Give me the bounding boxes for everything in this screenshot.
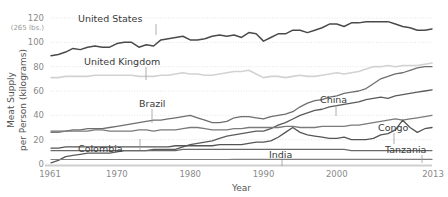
series-line-brazil bbox=[51, 67, 432, 131]
x-tick-label: 1980 bbox=[179, 169, 201, 179]
series-label-colombia: Colombia bbox=[78, 143, 123, 154]
y-axis-pounds-note: (265 lbs.) bbox=[11, 24, 45, 32]
series-label-united-states: United States bbox=[78, 13, 142, 24]
x-tick-label: 2013 bbox=[422, 169, 444, 179]
y-tick-label: 80 bbox=[33, 62, 44, 72]
x-axis-title: Year bbox=[231, 183, 251, 193]
y-axis-title: Meat Supply per Person (kilograms) bbox=[6, 49, 28, 151]
y-axis-title-line1: Meat Supply bbox=[6, 71, 16, 128]
series-label-congo: Congo bbox=[378, 122, 408, 133]
series-lines bbox=[51, 22, 432, 163]
x-tick-label: 1970 bbox=[106, 169, 128, 179]
y-tick-label: 20 bbox=[33, 135, 44, 145]
series-line-united-states bbox=[51, 22, 432, 56]
series-label-china: China bbox=[320, 94, 347, 105]
y-tick-label: 40 bbox=[33, 110, 44, 120]
x-tick-label: 1961 bbox=[39, 169, 61, 179]
y-tick-label: 60 bbox=[33, 86, 44, 96]
series-label-tanzania: Tanzania bbox=[384, 144, 426, 155]
y-tick-label: 0 bbox=[39, 159, 44, 169]
y-tick-label: 100 bbox=[28, 37, 44, 47]
series-label-brazil: Brazil bbox=[139, 98, 166, 109]
y-axis-title-line2: per Person (kilograms) bbox=[18, 49, 28, 151]
x-tick-label: 1990 bbox=[253, 169, 275, 179]
series-line-colombia bbox=[51, 115, 432, 132]
y-tick-label: 120 bbox=[28, 13, 44, 23]
chart-canvas: 020406080100120 196119701980199020002013… bbox=[0, 0, 448, 197]
y-axis-ticks: 020406080100120 bbox=[28, 13, 44, 169]
series-label-united-kingdom: United Kingdom bbox=[84, 56, 160, 67]
x-axis-ticks: 196119701980199020002013 bbox=[39, 169, 444, 179]
series-label-india: India bbox=[269, 149, 292, 160]
meat-supply-line-chart: 020406080100120 196119701980199020002013… bbox=[0, 0, 448, 197]
x-tick-label: 2000 bbox=[326, 169, 348, 179]
